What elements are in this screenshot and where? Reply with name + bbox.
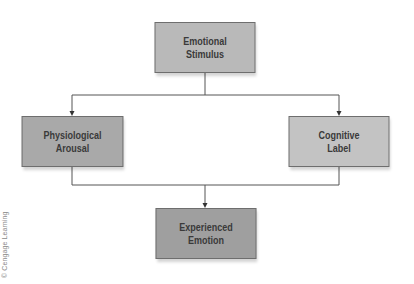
copyright-credit: © Cengage Learning <box>1 211 8 278</box>
two-factor-emotion-diagram: Emotional Stimulus Physiological Arousal… <box>0 0 414 284</box>
node-cognitive-label: Cognitive Label <box>289 116 390 167</box>
node-label: Physiological Arousal <box>43 129 101 155</box>
node-label: Experienced Emotion <box>179 221 233 247</box>
node-experienced-emotion: Experienced Emotion <box>156 208 257 259</box>
node-label: Emotional Stimulus <box>183 35 227 61</box>
node-label: Cognitive Label <box>318 129 359 155</box>
node-physiological-arousal: Physiological Arousal <box>22 116 124 167</box>
node-emotional-stimulus: Emotional Stimulus <box>155 22 256 73</box>
